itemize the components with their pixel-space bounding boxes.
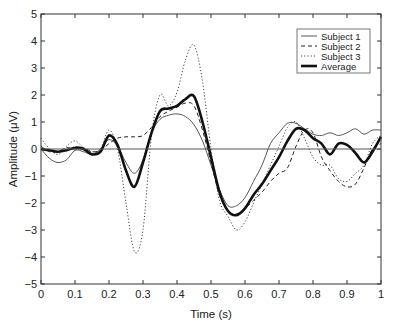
- x-tick-label: 0.3: [135, 288, 150, 300]
- series-line-average: [41, 95, 381, 215]
- chart-legend: Subject 1Subject 2Subject 3Average: [297, 29, 370, 73]
- y-tick-label: −1: [24, 170, 37, 182]
- y-tick-label: 4: [31, 35, 37, 47]
- x-tick-label: 0.8: [305, 288, 320, 300]
- y-tick-label: −4: [24, 251, 37, 263]
- x-tick-label: 0.6: [237, 288, 252, 300]
- y-tick-label: 1: [31, 116, 37, 128]
- legend-label: Average: [321, 61, 356, 72]
- y-tick-label: 3: [31, 62, 37, 74]
- x-axis-label: Time (s): [190, 308, 232, 320]
- x-tick-label: 0: [38, 288, 44, 300]
- y-tick-label: −5: [24, 278, 37, 290]
- x-tick-label: 0.7: [271, 288, 286, 300]
- x-tick-label: 0.9: [339, 288, 354, 300]
- x-tick-label: 0.1: [67, 288, 82, 300]
- y-tick-label: 0: [31, 143, 37, 155]
- y-tick-label: −2: [24, 197, 37, 209]
- y-tick-label: −3: [24, 224, 37, 236]
- x-tick-label: 0.4: [169, 288, 184, 300]
- x-tick-label: 0.5: [203, 288, 218, 300]
- eeg-line-chart: 00.10.20.30.40.50.60.70.80.91543210−1−2−…: [0, 0, 395, 325]
- x-tick-label: 1: [378, 288, 384, 300]
- y-tick-label: 5: [31, 8, 37, 20]
- y-axis-label: Amplitude (μV): [7, 111, 19, 187]
- y-tick-label: 2: [31, 89, 37, 101]
- x-tick-label: 0.2: [101, 288, 116, 300]
